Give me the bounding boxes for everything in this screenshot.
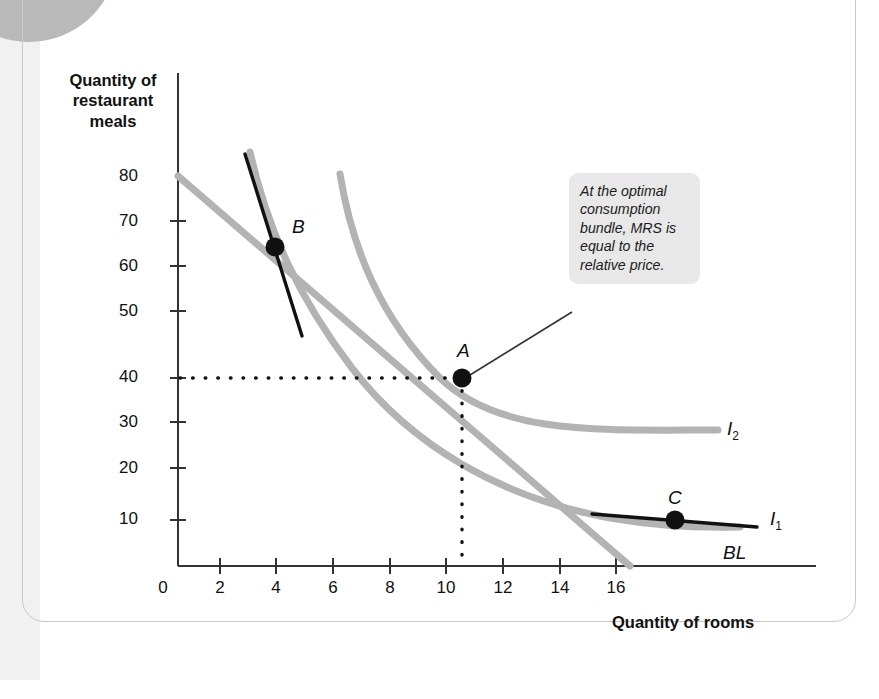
point-label-c: C bbox=[668, 487, 682, 509]
curve-label-bl: BL bbox=[723, 542, 746, 564]
callout-leader-line bbox=[470, 312, 572, 375]
chart-canvas bbox=[0, 0, 879, 699]
point-label-b: B bbox=[292, 216, 305, 238]
data-point-c bbox=[666, 511, 685, 530]
curve-label-i2: I2 bbox=[727, 418, 739, 443]
curve-label-i1-sub: 1 bbox=[775, 519, 782, 533]
curve-label-i2-sub: 2 bbox=[732, 429, 739, 443]
point-label-a: A bbox=[457, 340, 470, 362]
data-point-b bbox=[266, 238, 285, 257]
data-point-a bbox=[453, 369, 472, 388]
callout-annotation: At the optimal consumption bundle, MRS i… bbox=[569, 173, 700, 284]
figure-container: Quantity of restaurant meals Quantity of… bbox=[0, 0, 879, 699]
curve-label-i1: I1 bbox=[770, 508, 782, 533]
